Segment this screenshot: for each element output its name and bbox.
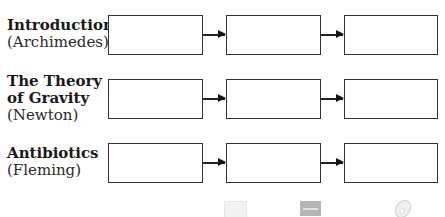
row-subtitle: (Fleming) — [7, 162, 99, 179]
arrow-icon — [321, 98, 343, 100]
row-title: The Theory — [7, 73, 102, 90]
row-label-gravity: The Theory of Gravity (Newton) — [7, 73, 102, 124]
row-label-introduction: Introduction (Archimedes) — [7, 17, 114, 51]
flow-box-1-3[interactable] — [344, 15, 438, 55]
flow-box-3-2[interactable] — [226, 143, 321, 183]
arrow-icon — [321, 34, 343, 36]
flow-box-2-3[interactable] — [344, 79, 438, 119]
row-title: Antibiotics — [7, 145, 99, 162]
flow-box-3-1[interactable] — [108, 143, 203, 183]
arrow-icon — [321, 162, 343, 164]
arrow-icon — [203, 162, 225, 164]
row-subtitle: (Archimedes) — [7, 34, 114, 51]
blank-note-icon[interactable] — [224, 201, 247, 217]
row-title: of Gravity — [7, 90, 102, 107]
flow-box-2-2[interactable] — [226, 79, 321, 119]
notebook-icon[interactable] — [300, 201, 321, 216]
cd-disc-icon[interactable] — [392, 198, 414, 217]
arrow-icon — [203, 34, 225, 36]
flow-box-1-1[interactable] — [108, 15, 203, 55]
arrow-icon — [203, 98, 225, 100]
row-label-antibiotics: Antibiotics (Fleming) — [7, 145, 99, 179]
flow-box-3-3[interactable] — [344, 143, 438, 183]
flow-box-1-2[interactable] — [226, 15, 321, 55]
flow-box-2-1[interactable] — [108, 79, 203, 119]
row-title: Introduction — [7, 17, 114, 34]
row-subtitle: (Newton) — [7, 107, 102, 124]
